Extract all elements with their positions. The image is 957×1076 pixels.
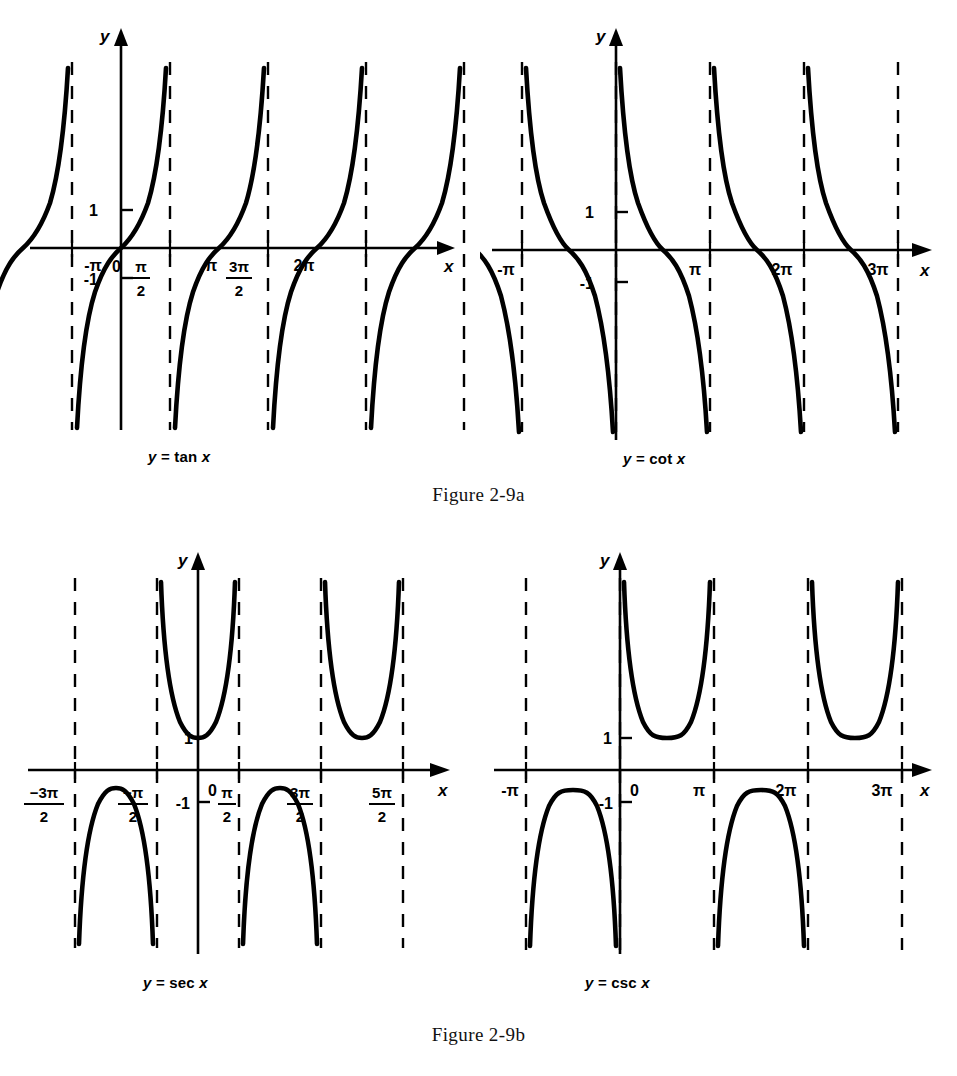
- y-tick-marks: [616, 212, 628, 282]
- csc-branch-2: [812, 582, 898, 738]
- sec-y-axis-label: y: [177, 551, 189, 570]
- tan-xtick-label-2pi: 2π: [293, 257, 314, 274]
- frac-denominator: 2: [223, 808, 231, 825]
- sec-xtick-label-neg-pi-2: −π 2: [118, 784, 148, 825]
- y-axis-arrow: [609, 28, 623, 46]
- sec-branch-right: [325, 582, 399, 738]
- frac-numerator: −π: [123, 784, 144, 801]
- cot-function-label: y = cot x: [623, 450, 685, 467]
- tan-ytick-label-1: 1: [89, 202, 98, 219]
- tan-xtick-label-0: 0: [112, 258, 121, 275]
- plot-csc: y x 1 -1 -π 0 π 2π 3π y = csc x: [480, 530, 950, 960]
- figure-2-9a-row: y x 1 -1 0 -π π 2π π 2 3π: [0, 0, 957, 520]
- tan-xtick-label-pi: π: [205, 257, 217, 274]
- figure-2-9b-row: y x 1 -1 0 −3π 2 −π 2: [0, 530, 957, 1076]
- x-axis-arrow: [912, 243, 932, 257]
- plot-sec: y x 1 -1 0 −3π 2 −π 2: [0, 530, 470, 960]
- frac-denominator: 2: [137, 282, 145, 299]
- cot-xtick-label-pi: π: [689, 261, 701, 278]
- frac-numerator: 3π: [290, 784, 310, 801]
- plot-sec-svg: y x 1 -1 0 −3π 2 −π 2: [0, 530, 470, 960]
- csc-xtick-label-neg-pi: -π: [501, 782, 519, 799]
- frac-numerator: 3π: [229, 258, 249, 275]
- tan-xtick-label-neg-pi: -π: [84, 257, 102, 274]
- cot-ytick-label-neg1: -1: [580, 275, 594, 292]
- sec-ytick-label-1: 1: [184, 730, 193, 747]
- x-axis-arrow: [430, 763, 450, 777]
- tan-xtick-label-pi-2: π 2: [132, 258, 150, 299]
- sec-xtick-label-neg-3pi-2: −3π 2: [24, 784, 64, 825]
- csc-branch-1: [624, 582, 710, 738]
- sec-function-label: y = sec x: [143, 974, 208, 991]
- csc-x-axis-label: x: [919, 781, 931, 800]
- y-axis-arrow: [191, 552, 205, 570]
- frac-denominator: 2: [296, 808, 304, 825]
- frac-numerator: π: [221, 784, 233, 801]
- sec-xtick-label-5pi-2: 5π 2: [369, 784, 395, 825]
- figure-caption-b: Figure 2-9b: [0, 1024, 957, 1046]
- x-axis-arrow: [437, 241, 455, 255]
- frac-numerator: 5π: [372, 784, 392, 801]
- sec-branch-mid-below: [243, 788, 317, 944]
- tan-function-label: y = tan x: [148, 448, 210, 465]
- csc-xtick-label-3pi: 3π: [871, 782, 892, 799]
- sec-xtick-label-pi-2: π 2: [218, 784, 236, 825]
- figure-page: y x 1 -1 0 -π π 2π π 2 3π: [0, 0, 957, 1076]
- plot-cot-svg: y x 1 -1 -π π 2π 3π: [480, 0, 950, 470]
- axes: [28, 560, 430, 954]
- y-axis-arrow: [114, 28, 128, 46]
- frac-denominator: 2: [129, 808, 137, 825]
- tan-y-axis-label: y: [99, 27, 111, 46]
- cot-xtick-label-3pi: 3π: [867, 261, 888, 278]
- csc-xtick-label-0: 0: [630, 782, 639, 799]
- csc-branch-4: [718, 790, 804, 946]
- csc-ytick-label-neg1: -1: [599, 795, 613, 812]
- sec-xtick-label-0: 0: [208, 782, 217, 799]
- frac-numerator: −3π: [30, 784, 59, 801]
- cot-y-axis-label: y: [595, 27, 607, 46]
- y-axis-arrow: [613, 552, 627, 570]
- csc-function-label: y = csc x: [585, 974, 650, 991]
- plot-tan: y x 1 -1 0 -π π 2π π 2 3π: [0, 0, 470, 470]
- figure-caption-a: Figure 2-9a: [0, 484, 957, 506]
- frac-numerator: π: [135, 258, 147, 275]
- sec-branch-left-below: [79, 788, 153, 944]
- cot-x-axis-label: x: [919, 261, 931, 280]
- frac-denominator: 2: [40, 808, 48, 825]
- plot-cot: y x 1 -1 -π π 2π 3π y = cot x: [480, 0, 950, 470]
- frac-denominator: 2: [235, 282, 243, 299]
- tan-xtick-label-3pi-2: 3π 2: [226, 258, 252, 299]
- plot-tan-svg: y x 1 -1 0 -π π 2π π 2 3π: [0, 0, 470, 470]
- csc-branch-3: [530, 790, 616, 946]
- csc-ytick-label-1: 1: [603, 730, 612, 747]
- tan-x-axis-label: x: [443, 257, 455, 276]
- cot-ytick-label-1: 1: [585, 204, 594, 221]
- sec-x-axis-label: x: [437, 781, 449, 800]
- cot-xtick-label-2pi: 2π: [771, 261, 792, 278]
- csc-xtick-label-pi: π: [693, 782, 705, 799]
- csc-xtick-label-2pi: 2π: [775, 782, 796, 799]
- csc-y-axis-label: y: [599, 551, 611, 570]
- plot-csc-svg: y x 1 -1 -π 0 π 2π 3π: [480, 530, 950, 960]
- cot-xtick-label-neg-pi: -π: [497, 261, 515, 278]
- frac-denominator: 2: [378, 808, 386, 825]
- x-axis-arrow: [912, 763, 932, 777]
- sec-xtick-label-3pi-2: 3π 2: [287, 784, 313, 825]
- axes: [494, 560, 912, 954]
- sec-ytick-label-neg1: -1: [176, 795, 190, 812]
